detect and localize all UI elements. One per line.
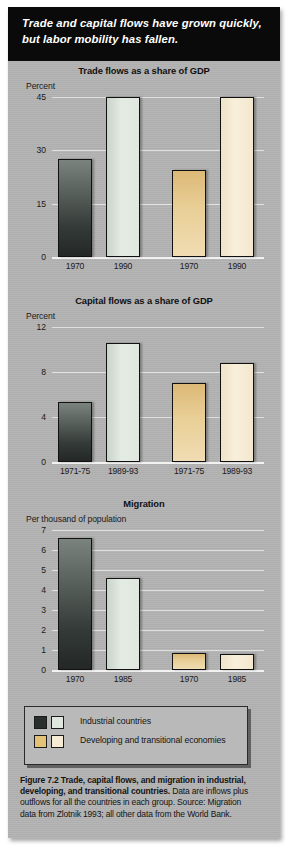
legend-swatch-industrial-light bbox=[51, 716, 64, 729]
headline-text: Trade and capital flows have grown quick… bbox=[22, 16, 270, 47]
figure-page: Trade and capital flows have grown quick… bbox=[0, 0, 296, 845]
y-tick-label: 3 bbox=[20, 605, 46, 615]
x-tick-label: 1985 bbox=[209, 674, 265, 684]
x-tick-label: 1989-93 bbox=[95, 466, 151, 476]
y-axis-label: Per thousand of population bbox=[26, 514, 126, 524]
bar bbox=[58, 159, 92, 257]
bar bbox=[220, 97, 254, 257]
axis-baseline bbox=[52, 670, 264, 672]
gridline bbox=[52, 530, 264, 531]
legend-swatch-developing-cream bbox=[51, 735, 64, 748]
figure-caption: Figure 7.2 Trade, capital flows, and mig… bbox=[20, 775, 258, 820]
y-axis-label: Percent bbox=[26, 311, 55, 321]
y-tick-label: 0 bbox=[20, 252, 46, 262]
plot-area bbox=[52, 327, 264, 462]
axis-baseline bbox=[52, 257, 264, 259]
x-tick-label: 1990 bbox=[95, 261, 151, 271]
legend-label-industrial: Industrial countries bbox=[80, 716, 248, 728]
y-tick-label: 7 bbox=[20, 525, 46, 535]
y-tick-label: 2 bbox=[20, 625, 46, 635]
y-tick-label: 6 bbox=[20, 545, 46, 555]
gridline bbox=[52, 327, 264, 328]
x-tick-label: 1989-93 bbox=[209, 466, 265, 476]
legend-label-developing: Developing and transitional economies bbox=[80, 735, 248, 747]
x-tick-label: 1985 bbox=[95, 674, 151, 684]
bar bbox=[172, 170, 206, 257]
bar bbox=[106, 97, 140, 257]
bar bbox=[106, 343, 140, 462]
y-tick-label: 12 bbox=[20, 322, 46, 332]
bar bbox=[58, 538, 92, 670]
legend-box: Industrial countries Developing and tran… bbox=[24, 706, 248, 765]
chart-title: Capital flows as a share of GDP bbox=[8, 295, 280, 306]
y-tick-label: 8 bbox=[20, 367, 46, 377]
bar bbox=[220, 654, 254, 670]
y-tick-label: 1 bbox=[20, 645, 46, 655]
legend-swatch-industrial-dark bbox=[34, 716, 47, 729]
chart-migration: MigrationPer thousand of population01234… bbox=[8, 494, 280, 702]
y-tick-label: 30 bbox=[20, 145, 46, 155]
y-tick-label: 45 bbox=[20, 92, 46, 102]
y-tick-label: 5 bbox=[20, 565, 46, 575]
y-tick-label: 15 bbox=[20, 199, 46, 209]
bar bbox=[58, 402, 92, 462]
bar bbox=[172, 383, 206, 462]
x-tick-label: 1990 bbox=[209, 261, 265, 271]
bar bbox=[172, 653, 206, 670]
chart-title: Migration bbox=[8, 498, 280, 509]
y-tick-label: 4 bbox=[20, 412, 46, 422]
chart-trade-flows: Trade flows as a share of GDPPercent0153… bbox=[8, 61, 280, 291]
y-tick-label: 0 bbox=[20, 665, 46, 675]
plot-area bbox=[52, 530, 264, 670]
axis-baseline bbox=[52, 462, 264, 464]
y-tick-label: 0 bbox=[20, 457, 46, 467]
bar bbox=[220, 363, 254, 462]
y-axis-label: Percent bbox=[26, 81, 55, 91]
chart-capital-flows: Capital flows as a share of GDPPercent04… bbox=[8, 291, 280, 494]
legend-swatch-developing-tan bbox=[34, 735, 47, 748]
headline-banner: Trade and capital flows have grown quick… bbox=[8, 7, 280, 61]
y-tick-label: 4 bbox=[20, 585, 46, 595]
plot-area bbox=[52, 97, 264, 257]
bar bbox=[106, 578, 140, 670]
chart-title: Trade flows as a share of GDP bbox=[8, 65, 280, 76]
